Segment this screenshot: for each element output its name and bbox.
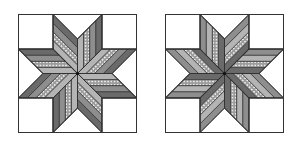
center-point [223,72,226,75]
right-star-block [165,14,284,133]
star-block-svg [18,14,137,133]
center-point [76,72,79,75]
left-star-block [18,14,137,133]
star-block-svg [165,14,284,133]
